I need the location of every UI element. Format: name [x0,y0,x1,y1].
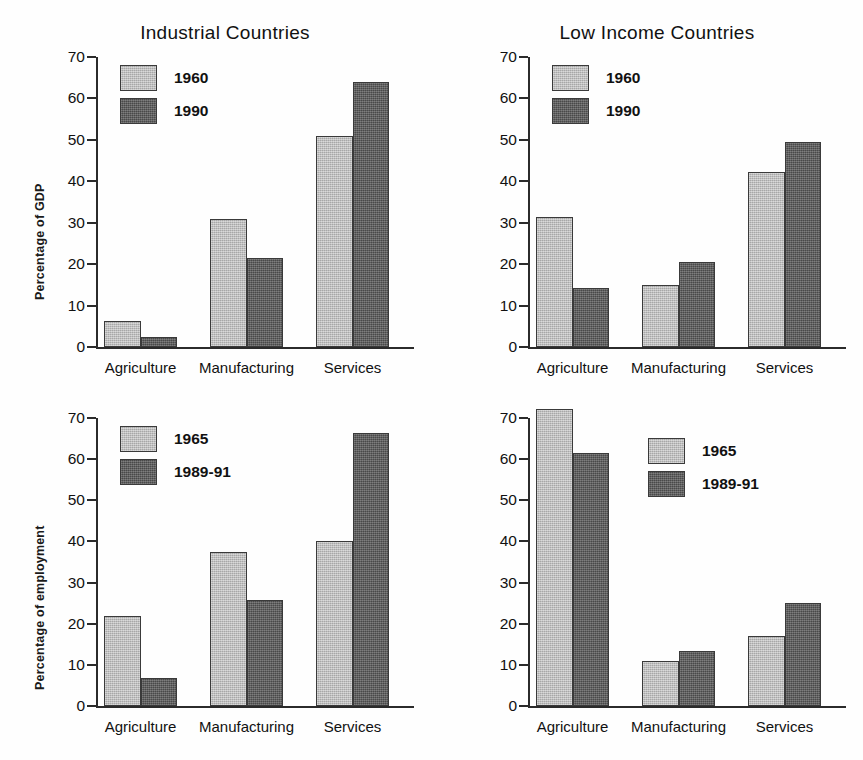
y-axis-tick [519,346,528,348]
y-axis-label: Percentage of employment [33,525,47,690]
bar-agriculture-1965 [104,616,141,706]
y-axis-tick [519,499,528,501]
y-axis-tick [519,222,528,224]
y-axis-tick [87,56,96,58]
x-axis-category-label: Agriculture [537,359,609,376]
bar-services-1965 [748,636,785,706]
bar-manufacturing-1960 [642,285,679,347]
plot-area: 010203040506070AgricultureManufacturingS… [528,418,846,706]
legend-swatch-1960 [120,65,157,91]
y-axis-tick [87,705,96,707]
legend-item-1960: 1960 [120,65,208,91]
panel-title: Low Income Countries [492,22,822,44]
y-axis-tick-label: 40 [68,172,85,190]
legend-label-1965: 1965 [702,442,736,460]
x-axis-category-label: Services [324,718,382,735]
y-axis-tick [519,56,528,58]
y-axis-tick [519,664,528,666]
bar-services-1990 [353,82,390,347]
y-axis-tick-label: 0 [76,338,85,356]
bar-manufacturing-1960 [210,219,247,347]
y-axis-tick-label: 70 [500,409,517,427]
x-axis-line [528,706,846,708]
legend: 19651989-91 [648,438,759,504]
legend-swatch-1990 [120,98,157,124]
y-axis-tick-label: 50 [500,131,517,149]
y-axis-tick-label: 10 [68,297,85,315]
x-axis-category-label: Services [324,359,382,376]
legend-item-1989-91: 1989-91 [120,459,231,485]
plot-area: 010203040506070AgricultureManufacturingS… [528,57,846,347]
y-axis-tick-label: 10 [500,656,517,674]
bar-agriculture-1990 [141,337,178,347]
y-axis-tick [87,180,96,182]
y-axis-tick [519,705,528,707]
y-axis-tick-label: 60 [500,450,517,468]
y-axis-tick [87,263,96,265]
legend-item-1965: 1965 [120,426,231,452]
legend-label-1989-91: 1989-91 [174,463,231,481]
y-axis-tick [87,458,96,460]
y-axis-tick-label: 30 [500,574,517,592]
y-axis-tick [519,139,528,141]
y-axis-tick [87,582,96,584]
y-axis-tick-label: 70 [500,48,517,66]
y-axis-tick-label: 50 [68,131,85,149]
y-axis-tick-label: 60 [500,89,517,107]
y-axis-tick-label: 20 [68,615,85,633]
y-axis-tick [519,97,528,99]
legend-label-1960: 1960 [606,69,640,87]
x-axis-category-label: Services [756,718,814,735]
y-axis-label: Percentage of GDP [33,183,47,300]
bar-services-1990 [785,142,822,347]
bar-agriculture-1960 [536,217,573,347]
chart-panel-lowincome-employment: 010203040506070AgricultureManufacturingS… [0,0,863,760]
bar-manufacturing-1989-91 [679,651,716,706]
y-axis-tick-label: 70 [68,48,85,66]
y-axis-tick-label: 20 [500,255,517,273]
bar-manufacturing-1990 [679,262,716,347]
y-axis-tick-label: 0 [508,338,517,356]
y-axis-tick-label: 60 [68,450,85,468]
legend-label-1990: 1990 [174,102,208,120]
x-axis-category-label: Agriculture [537,718,609,735]
y-axis-tick-label: 30 [68,574,85,592]
y-axis-tick-label: 40 [68,532,85,550]
legend-swatch-1965 [648,438,685,464]
y-axis-tick [87,346,96,348]
y-axis-tick-label: 10 [68,656,85,674]
y-axis-tick-label: 50 [500,491,517,509]
legend-swatch-1960 [552,65,589,91]
y-axis-tick [87,623,96,625]
y-axis-tick-label: 20 [68,255,85,273]
y-axis-tick-label: 40 [500,172,517,190]
y-axis-tick [519,623,528,625]
chart-panel-industrial-gdp: Industrial CountriesPercentage of GDP010… [0,0,863,760]
y-axis-tick [87,305,96,307]
y-axis-line [96,418,98,706]
bar-manufacturing-1965 [210,552,247,706]
y-axis-tick-label: 70 [68,409,85,427]
x-axis-line [96,706,414,708]
y-axis-tick [87,97,96,99]
bar-manufacturing-1989-91 [247,600,284,706]
y-axis-line [528,418,530,706]
y-axis-tick [87,664,96,666]
bar-agriculture-1989-91 [141,678,178,706]
y-axis-tick-label: 10 [500,297,517,315]
bar-services-1989-91 [785,603,822,706]
x-axis-category-label: Manufacturing [199,359,294,376]
legend-swatch-1989-91 [120,459,157,485]
x-axis-category-label: Manufacturing [199,718,294,735]
y-axis-tick-label: 0 [508,697,517,715]
y-axis-tick-label: 20 [500,615,517,633]
plot-area: 010203040506070AgricultureManufacturingS… [96,418,414,706]
y-axis-tick-label: 50 [68,491,85,509]
legend-item-1960: 1960 [552,65,640,91]
bar-manufacturing-1990 [247,258,284,347]
legend-label-1960: 1960 [174,69,208,87]
y-axis-tick [87,499,96,501]
bar-agriculture-1989-91 [573,453,610,706]
y-axis-tick [87,222,96,224]
x-axis-category-label: Manufacturing [631,359,726,376]
